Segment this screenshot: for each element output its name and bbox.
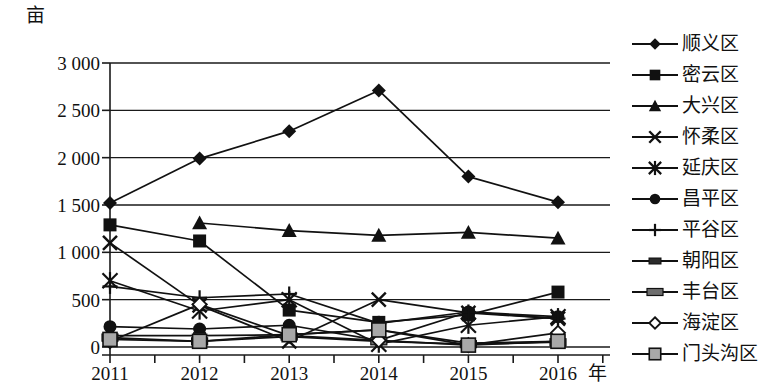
legend-item-label: 延庆区 [678,158,739,178]
legend-item-label: 昌平区 [678,189,739,209]
legend-item-朝阳区[interactable]: 朝阳区 [632,245,768,276]
x-axis-label: 年 [588,364,607,383]
x-axis-tick-label: 2013 [270,364,308,383]
x-axis-tick-label: 2014 [360,364,398,383]
legend-item-海淀区[interactable]: 海淀区 [632,307,768,338]
open-diamond-icon [632,313,678,333]
legend-item-昌平区[interactable]: 昌平区 [632,183,768,214]
axes [102,63,610,363]
legend-item-延庆区[interactable]: 延庆区 [632,152,768,183]
circle-icon [632,189,678,209]
legend-item-大兴区[interactable]: 大兴区 [632,90,768,121]
x-axis-tick-label: 2011 [91,364,128,383]
legend-item-label: 海淀区 [678,313,739,333]
x-axis-tick-label: 2015 [449,364,487,383]
data-point-gray-square [193,334,207,348]
square-icon [632,65,678,85]
legend: 顺义区密云区大兴区怀柔区延庆区昌平区平谷区朝阳区丰台区海淀区门头沟区 [632,28,768,369]
data-point-diamond [103,196,117,210]
triangle-icon [632,96,678,116]
gray-square-icon [632,344,678,364]
legend-item-label: 怀柔区 [678,127,739,147]
dark-bar-icon [632,251,678,271]
gridlines [110,63,610,347]
y-axis-tick-label: 1 000 [2,243,100,262]
data-point-gray-square [282,328,296,342]
legend-item-顺义区[interactable]: 顺义区 [632,28,768,59]
data-point-plus [103,279,118,294]
data-point-gray-square [461,338,475,352]
y-axis-unit-label: 亩 [26,6,45,25]
legend-item-label: 门头沟区 [678,344,758,364]
legend-item-label: 大兴区 [678,96,739,116]
cross-x-icon [632,127,678,147]
legend-item-label: 密云区 [678,65,739,85]
legend-item-怀柔区[interactable]: 怀柔区 [632,121,768,152]
legend-item-门头沟区[interactable]: 门头沟区 [632,338,768,369]
data-point-diamond [551,195,565,209]
y-axis-tick-label: 500 [2,290,100,309]
x-axis-tick-label: 2012 [181,364,219,383]
y-axis-tick-label: 3 000 [2,54,100,73]
asterisk-icon [632,158,678,178]
data-point-square [193,234,206,247]
y-axis-tick-label: 2 000 [2,148,100,167]
y-axis-tick-label: 0 [2,338,100,357]
data-point-gray-square [551,334,565,348]
y-axis-tick-label: 1 500 [2,196,100,215]
data-point-gray-square [103,332,117,346]
data-point-circle [104,320,117,333]
series-0 [103,83,565,210]
legend-item-label: 丰台区 [678,282,739,302]
data-point-square [104,218,117,231]
series-group [102,83,566,352]
data-point-gray-square [372,323,386,337]
bar-icon [632,282,678,302]
legend-item-label: 平谷区 [678,220,739,240]
data-point-triangle [192,215,207,229]
y-axis-tick-label: 2 500 [2,101,100,120]
legend-item-密云区[interactable]: 密云区 [632,59,768,90]
diamond-icon [632,34,678,54]
legend-item-丰台区[interactable]: 丰台区 [632,276,768,307]
legend-item-label: 顺义区 [678,34,739,54]
chart-container: 亩 年 顺义区密云区大兴区怀柔区延庆区昌平区平谷区朝阳区丰台区海淀区门头沟区 3… [0,0,768,390]
plus-icon [632,220,678,240]
series-2 [192,215,565,244]
data-point-diamond [282,124,296,138]
x-axis-tick-label: 2016 [539,364,577,383]
legend-item-label: 朝阳区 [678,251,739,271]
data-point-square [552,286,565,299]
legend-item-平谷区[interactable]: 平谷区 [632,214,768,245]
data-point-diamond [193,152,207,166]
